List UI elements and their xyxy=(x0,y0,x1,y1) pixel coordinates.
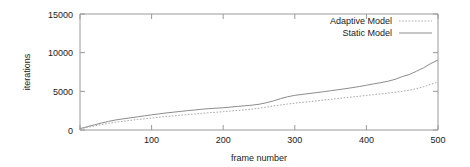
y-tick-label: 0 xyxy=(68,126,73,136)
x-tick-label: 500 xyxy=(430,135,445,145)
y-tick-label: 15000 xyxy=(48,10,73,20)
chart-figure: 050001000015000 100200300400500 iteratio… xyxy=(0,0,470,167)
y-tick-label: 10000 xyxy=(48,48,73,58)
legend-label-static-model: Static Model xyxy=(342,28,392,38)
legend-label-adaptive-model: Adaptive Model xyxy=(330,16,392,26)
x-tick-label: 200 xyxy=(216,135,231,145)
line-chart: 050001000015000 100200300400500 iteratio… xyxy=(0,0,470,167)
x-tick-label: 400 xyxy=(359,135,374,145)
x-tick-label: 100 xyxy=(144,135,159,145)
y-axis-title: iterations xyxy=(22,53,32,90)
chart-background xyxy=(0,0,470,167)
x-axis-title: frame number xyxy=(231,153,287,163)
y-tick-label: 5000 xyxy=(53,87,73,97)
x-tick-label: 300 xyxy=(287,135,302,145)
